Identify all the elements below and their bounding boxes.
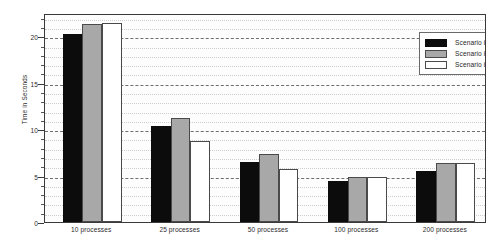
x-tick-label: 200 processes <box>423 226 467 233</box>
x-tick-label: 10 processes <box>71 226 111 233</box>
bar <box>259 154 279 222</box>
legend-label-scenario-ii: Scenario ii <box>455 50 486 57</box>
bar <box>416 171 436 222</box>
legend-item: Scenario iii <box>425 59 486 70</box>
legend-swatch-scenario-iii <box>425 61 447 69</box>
bar-group <box>63 15 122 222</box>
bar-chart: Time in Seconds 05101520 Scenario i Scen… <box>0 0 492 251</box>
bar-group <box>151 15 210 222</box>
bar <box>456 163 476 222</box>
y-tick-label: 10 <box>20 127 38 134</box>
bar <box>348 177 368 223</box>
legend-swatch-scenario-ii <box>425 50 447 58</box>
legend-label-scenario-iii: Scenario iii <box>455 61 486 68</box>
x-tick-label: 25 processes <box>159 226 199 233</box>
x-tick-label: 100 processes <box>334 226 378 233</box>
bar <box>63 34 83 222</box>
y-axis-title: Time in Seconds <box>21 30 28 170</box>
plot-area: Scenario i Scenario ii Scenario iii <box>44 14 486 223</box>
bar <box>171 118 191 222</box>
y-tick-label: 5 <box>20 173 38 180</box>
bar <box>151 126 171 222</box>
x-tick-label: 50 processes <box>248 226 288 233</box>
bar <box>436 163 456 222</box>
y-tick-label: 20 <box>20 34 38 41</box>
bar-group <box>240 15 299 222</box>
bar <box>190 141 210 222</box>
y-tick-label: 0 <box>20 220 38 227</box>
bar <box>240 162 260 222</box>
bar <box>367 177 387 223</box>
bar-group <box>328 15 387 222</box>
bar <box>328 181 348 222</box>
bar <box>102 23 122 222</box>
legend-item: Scenario ii <box>425 48 486 59</box>
legend-swatch-scenario-i <box>425 39 447 47</box>
legend-item: Scenario i <box>425 37 486 48</box>
y-tick-label: 15 <box>20 80 38 87</box>
bar <box>279 169 299 222</box>
y-tick-mark <box>38 223 44 224</box>
chart-legend: Scenario i Scenario ii Scenario iii <box>419 32 486 75</box>
legend-label-scenario-i: Scenario i <box>455 39 485 46</box>
bar <box>82 24 102 222</box>
